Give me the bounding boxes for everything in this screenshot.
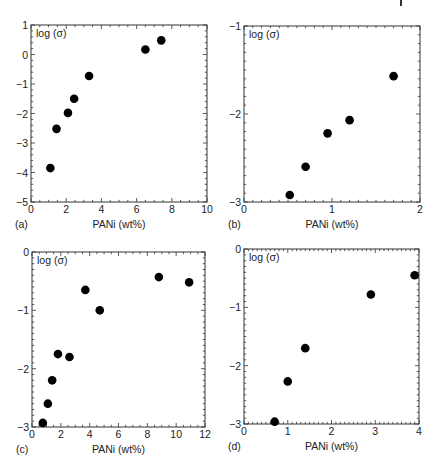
x-tick-label: 10 xyxy=(201,203,213,215)
x-tick-label: 0 xyxy=(28,203,34,215)
y-tick-label: −2 xyxy=(16,108,28,120)
x-tick-label: 4 xyxy=(416,425,422,437)
data-point xyxy=(270,417,279,426)
panel-d: 01234−3−2−10log (σ)PANi (wt%)(d) xyxy=(228,243,422,452)
y-tick-label: −3 xyxy=(229,418,241,430)
y-tick-label: −2 xyxy=(229,360,241,372)
panel-label: (a) xyxy=(15,218,28,230)
data-point xyxy=(81,286,90,295)
x-axis-label: PANi (wt%) xyxy=(306,218,359,230)
data-point xyxy=(345,116,354,125)
panel-label: (c) xyxy=(16,443,28,455)
plot-frame xyxy=(32,252,205,427)
y-tick-label: −1 xyxy=(17,304,29,316)
data-point xyxy=(155,273,164,282)
figure: 0246810−5−4−3−2−101log (σ)PANi (wt%)(a) … xyxy=(0,0,435,469)
x-tick-label: 8 xyxy=(169,203,175,215)
data-point xyxy=(70,94,79,103)
data-point xyxy=(157,36,166,45)
plot-frame xyxy=(244,249,419,424)
data-point xyxy=(301,163,310,172)
x-tick-label: 2 xyxy=(58,428,64,440)
data-point xyxy=(54,350,63,359)
x-axis-label: PANi (wt%) xyxy=(92,443,145,455)
data-point xyxy=(52,125,61,134)
x-tick-label: 4 xyxy=(87,428,93,440)
x-axis-label: PANi (wt%) xyxy=(93,218,146,230)
data-point xyxy=(95,306,104,315)
data-point xyxy=(48,376,57,385)
x-tick-label: 2 xyxy=(63,203,69,215)
panel-b: 012−3−2−1log (σ)PANi (wt%)(b) xyxy=(228,20,423,230)
data-point xyxy=(85,72,94,81)
panel-label: (b) xyxy=(228,218,241,230)
panel-a: 0246810−5−4−3−2−101log (σ)PANi (wt%)(a) xyxy=(15,19,213,230)
y-tick-label: −3 xyxy=(229,196,241,208)
x-tick-label: 6 xyxy=(134,203,140,215)
panel-c: 024681012−3−2−10log (σ)PANi (wt%)(c) xyxy=(16,246,211,455)
y-tick-label: −2 xyxy=(229,108,241,120)
y-tick-label: −1 xyxy=(229,301,241,313)
y-tick-label: −2 xyxy=(17,363,29,375)
x-tick-label: 0 xyxy=(241,203,247,215)
panel-label: (d) xyxy=(228,440,241,452)
data-point xyxy=(44,399,53,408)
x-tick-label: 2 xyxy=(417,203,423,215)
x-tick-label: 12 xyxy=(199,428,211,440)
y-tick-label: −1 xyxy=(229,20,241,32)
x-tick-label: 4 xyxy=(98,203,104,215)
x-tick-label: 3 xyxy=(372,425,378,437)
data-point xyxy=(367,290,376,299)
data-point xyxy=(141,45,150,54)
data-point xyxy=(64,109,73,118)
y-axis-label: log (σ) xyxy=(37,254,67,266)
y-tick-label: −1 xyxy=(16,78,28,90)
data-point xyxy=(39,419,48,428)
x-tick-label: 0 xyxy=(29,428,35,440)
x-tick-label: 10 xyxy=(170,428,182,440)
data-point xyxy=(283,377,292,386)
x-tick-label: 2 xyxy=(329,425,335,437)
data-point xyxy=(389,72,398,81)
y-tick-label: 1 xyxy=(22,19,28,31)
y-tick-label: 0 xyxy=(22,49,28,61)
data-point xyxy=(185,278,194,287)
x-axis-label: PANi (wt%) xyxy=(305,440,358,452)
data-point xyxy=(323,129,332,138)
y-axis-label: log (σ) xyxy=(249,28,279,40)
x-tick-label: 6 xyxy=(116,428,122,440)
x-tick-label: 1 xyxy=(285,425,291,437)
y-axis-label: log (σ) xyxy=(36,27,66,39)
y-axis-label: log (σ) xyxy=(249,251,279,263)
data-point xyxy=(301,344,310,353)
y-tick-label: −3 xyxy=(16,137,28,149)
y-tick-label: 0 xyxy=(235,243,241,255)
y-tick-label: −5 xyxy=(16,196,28,208)
data-point xyxy=(46,164,55,173)
data-point xyxy=(285,191,294,200)
data-point xyxy=(65,353,74,362)
y-tick-label: −4 xyxy=(16,167,28,179)
x-tick-label: 8 xyxy=(144,428,150,440)
plot-frame xyxy=(31,25,207,202)
plot-frame xyxy=(244,26,420,202)
x-tick-label: 1 xyxy=(329,203,335,215)
data-point xyxy=(410,271,419,280)
y-tick-label: 0 xyxy=(23,246,29,258)
y-tick-label: −3 xyxy=(17,421,29,433)
x-tick-label: 0 xyxy=(241,425,247,437)
